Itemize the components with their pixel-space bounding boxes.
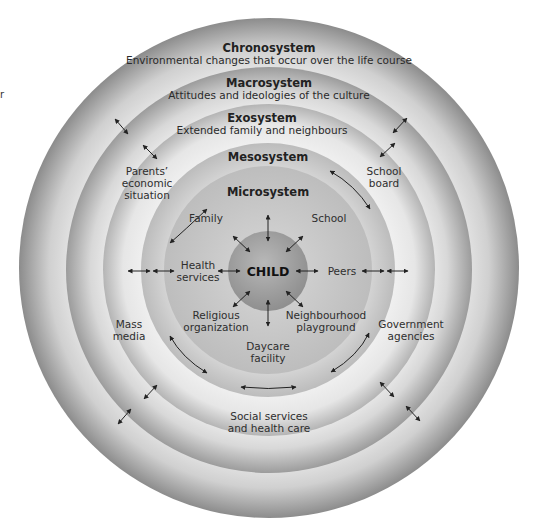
macrosystem-subtitle: Attitudes and ideologies of the culture [168, 89, 369, 101]
family-label: Family [189, 212, 223, 224]
health-services-label-line1: Health [181, 259, 215, 271]
microsystem-title: Microsystem [227, 185, 309, 199]
chronosystem-subtitle: Environmental changes that occur over th… [126, 54, 412, 66]
mesosystem-title: Mesosystem [228, 150, 308, 164]
daycare-facility-label-line1: Daycare [246, 340, 290, 352]
chronosystem-title: Chronosystem [223, 41, 316, 55]
social-services-label-line2: and health care [228, 422, 310, 434]
school-board-label-line2: board [369, 177, 399, 189]
macrosystem-title: Macrosystem [226, 76, 312, 90]
religious-organization-label-line2: organization [183, 321, 248, 333]
government-agencies-label-line2: agencies [388, 330, 435, 342]
health-services-label-line2: services [176, 271, 219, 283]
parents-economic-label-line1: Parents’ [126, 165, 168, 177]
parents-economic-label-line2: economic [122, 177, 173, 189]
school-label: School [312, 212, 347, 224]
mass-media-label-line1: Mass [116, 318, 142, 330]
mass-media-label-line2: media [113, 330, 146, 342]
neighbourhood-playground-label-line2: playground [296, 321, 355, 333]
religious-organization-label-line1: Religious [192, 309, 239, 321]
parents-economic-label-line3: situation [124, 189, 170, 201]
exosystem-title: Exosystem [227, 111, 297, 125]
daycare-facility-label-line2: facility [251, 352, 286, 364]
peers-label: Peers [328, 265, 357, 277]
exosystem-subtitle: Extended family and neighbours [177, 124, 348, 136]
ecological-systems-diagram: Chronosystem Environmental changes that … [0, 0, 534, 532]
government-agencies-label-line1: Government [378, 318, 443, 330]
social-services-label-line1: Social services [230, 410, 308, 422]
school-board-label-line1: School [367, 165, 402, 177]
child-label: CHILD [247, 264, 290, 279]
neighbourhood-playground-label-line1: Neighbourhood [286, 309, 367, 321]
